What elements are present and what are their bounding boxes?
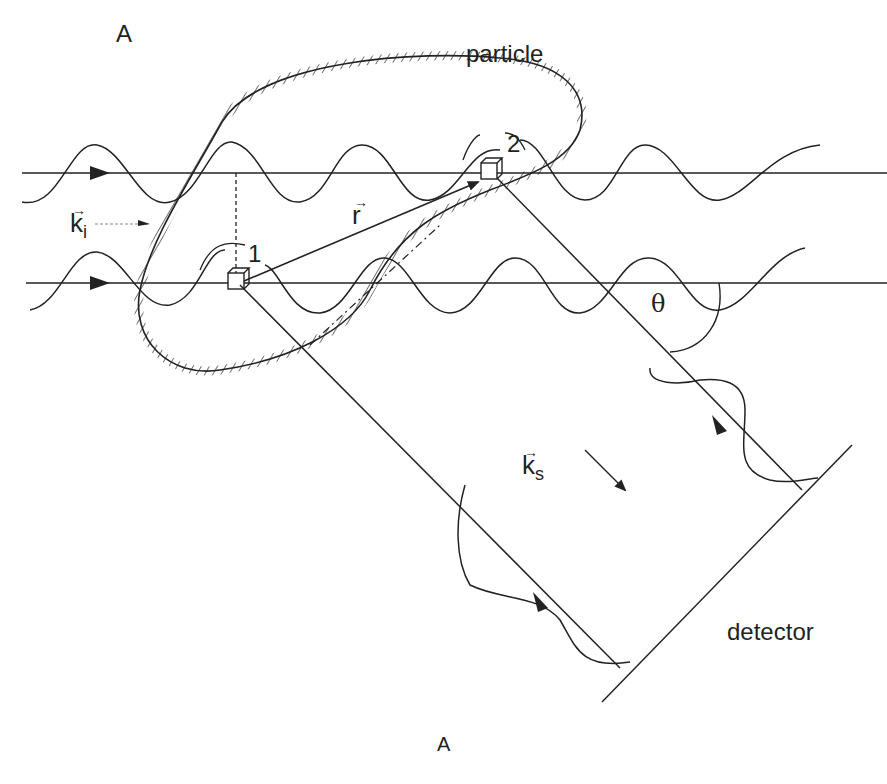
scattered-wavevector-label: → ks: [522, 450, 544, 485]
ks-direction-arrow: [585, 450, 625, 490]
incident-wavevector-label: → ki: [70, 208, 87, 243]
panel-label-top: A: [116, 20, 132, 48]
panel-label-bottom: A: [437, 733, 450, 756]
scattering-angle-label: θ: [651, 290, 665, 318]
incident-beam-upper: [22, 140, 887, 203]
scattering-angle-arc: [670, 283, 720, 352]
detector-plane: [602, 445, 852, 702]
detector-label: detector: [727, 618, 814, 646]
particle-label: particle: [466, 40, 543, 68]
scattered-beam-2: [497, 178, 818, 490]
position-vector-label: → r: [352, 200, 361, 231]
scattered-beam-1: [240, 285, 630, 668]
scatterer-1-label: 1: [248, 240, 261, 268]
ki-arrowhead: [138, 220, 150, 226]
scatterer-1-cube: [228, 268, 249, 289]
incident-beam-lower: [26, 248, 887, 313]
scatterer-2-cube: [481, 158, 502, 179]
scatterer-2-label: 2: [507, 130, 520, 158]
scattering-diagram: [0, 0, 887, 784]
